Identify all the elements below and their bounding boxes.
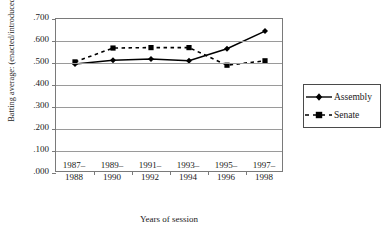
y-tick-label: .400	[9, 79, 49, 88]
legend-item-assembly[interactable]: Assembly	[304, 88, 380, 106]
y-tick-mark	[52, 85, 56, 86]
data-point-marker	[186, 45, 191, 50]
x-tick-label: 1997–1998	[236, 160, 292, 183]
data-point-marker	[148, 45, 153, 50]
y-tick-mark	[52, 63, 56, 64]
y-tick-mark	[52, 151, 56, 152]
legend-key-assembly-icon	[304, 88, 334, 106]
gridline	[56, 63, 282, 64]
data-point-marker	[148, 56, 154, 62]
plot-area	[55, 18, 283, 172]
y-tick-mark	[52, 41, 56, 42]
y-tick-label: .700	[9, 13, 49, 22]
y-tick-mark	[52, 129, 56, 130]
y-tick-label: .000	[9, 167, 49, 176]
legend-label-senate: Senate	[334, 109, 359, 121]
chart-legend: Assembly Senate	[303, 84, 381, 128]
y-tick-label: .500	[9, 57, 49, 66]
gridline	[56, 41, 282, 42]
x-axis-title: Years of session	[55, 214, 283, 224]
y-tick-label: .600	[9, 35, 49, 44]
gridline	[56, 85, 282, 86]
gridline	[56, 151, 282, 152]
legend-label-assembly: Assembly	[334, 91, 372, 103]
chart-figure: Batting average: (enacted/introduced) .0…	[0, 0, 387, 239]
y-tick-mark	[52, 19, 56, 20]
series-line-assembly	[75, 31, 265, 64]
legend-item-senate[interactable]: Senate	[304, 106, 380, 124]
y-tick-label: .200	[9, 123, 49, 132]
y-tick-label: .300	[9, 101, 49, 110]
data-point-marker	[110, 45, 115, 50]
gridline	[56, 107, 282, 108]
y-tick-mark	[52, 107, 56, 108]
data-point-marker	[224, 46, 230, 52]
y-tick-label: .100	[9, 145, 49, 154]
gridline	[56, 129, 282, 130]
data-series-layer	[56, 19, 284, 173]
data-point-marker	[262, 28, 268, 34]
legend-key-senate-icon	[304, 106, 334, 124]
